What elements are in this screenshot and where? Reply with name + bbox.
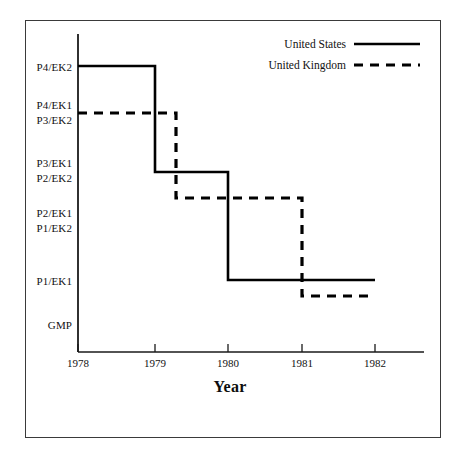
y-tick-label-p3-ek1: P3/EK1 — [10, 157, 72, 169]
x-tick-label-1979: 1979 — [132, 357, 178, 369]
x-tick-label-1980: 1980 — [205, 357, 251, 369]
x-axis-title: Year — [160, 378, 300, 396]
legend-label-united-states: United States — [228, 38, 346, 50]
y-tick-label-p2-ek1: P2/EK1 — [10, 207, 72, 219]
y-tick-label-p1-ek1: P1/EK1 — [10, 275, 72, 287]
series-united-states-line — [78, 66, 375, 280]
y-tick-label-p1-ek2: P1/EK2 — [10, 222, 72, 234]
chart-screenshot: P4/EK2 P4/EK1 P3/EK2 P3/EK1 P2/EK2 P2/EK… — [0, 0, 466, 458]
x-tick-label-1982: 1982 — [352, 357, 398, 369]
x-tick-label-1981: 1981 — [279, 357, 325, 369]
y-tick-label-p2-ek2: P2/EK2 — [10, 172, 72, 184]
x-tick-marks — [78, 344, 375, 352]
x-tick-label-1978: 1978 — [55, 357, 101, 369]
y-tick-label-p3-ek2: P3/EK2 — [10, 114, 72, 126]
legend-label-united-kingdom: United Kingdom — [228, 59, 346, 71]
y-tick-label-p4-ek1: P4/EK1 — [10, 99, 72, 111]
y-tick-label-p4-ek2: P4/EK2 — [10, 61, 72, 73]
y-tick-label-gmp: GMP — [10, 319, 72, 331]
series-united-kingdom-line — [78, 113, 375, 296]
